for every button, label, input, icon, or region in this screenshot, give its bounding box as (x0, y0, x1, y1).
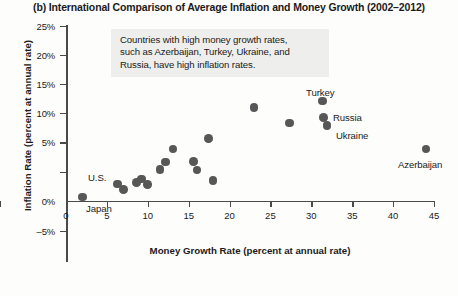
data-point-10 (193, 166, 202, 175)
x-tick-label-45: 45 (419, 210, 449, 221)
x-tick-label-10: 10 (133, 210, 163, 221)
x-tick-label-20: 20 (215, 210, 245, 221)
y-tick-label-10: 10% (11, 108, 55, 119)
y-axis-title: Inflation Rate (percent at annual rate) (22, 11, 33, 241)
y-tick-neg5 (60, 231, 66, 232)
y-tick-5 (60, 142, 66, 143)
y-tick-label-20: 20% (11, 50, 55, 61)
x-tick-20 (230, 201, 231, 207)
x-tick-label-35: 35 (337, 210, 367, 221)
x-tick-label-30: 30 (296, 210, 326, 221)
data-point-14 (285, 119, 294, 128)
x-tick-10 (148, 201, 149, 207)
point-label-azerbaijan: Azerbaijan (398, 159, 442, 170)
point-label-u-s: U.S. (88, 172, 106, 183)
data-point-7 (161, 158, 170, 167)
y-tick-10 (60, 113, 66, 114)
data-point-ukraine (323, 121, 332, 130)
x-tick-35 (352, 201, 353, 207)
y-tick-25 (60, 26, 66, 27)
y-tick-label-15: 15% (11, 79, 55, 90)
x-tick-label-25: 25 (255, 210, 285, 221)
data-point-5 (143, 180, 152, 189)
annotation-line-2: such as Azerbaijan, Turkey, Ukraine, and (120, 46, 322, 58)
data-point-9 (189, 157, 198, 166)
x-tick-0 (66, 201, 67, 207)
point-label-russia: Russia (333, 112, 362, 123)
data-point-13 (250, 103, 259, 112)
y-tick-15 (60, 84, 66, 85)
x-tick-label-0: 0 (51, 210, 81, 221)
chart-title: (b) International Comparison of Average … (0, 1, 458, 13)
data-point-12 (209, 176, 218, 185)
x-axis-line (66, 201, 434, 203)
y-tick-label-neg5: –5% (11, 226, 55, 237)
point-label-turkey: Turkey (306, 87, 334, 98)
x-tick-40 (393, 201, 394, 207)
data-point-japan (78, 193, 87, 202)
annotation-line-3: Russia, have high inflation rates. (120, 59, 322, 71)
chart-figure: (b) International Comparison of Average … (0, 0, 458, 296)
point-label-japan: Japan (86, 203, 112, 214)
data-point-azerbaijan (422, 145, 431, 154)
y-tick-0-minor (60, 172, 66, 173)
data-point-8 (169, 145, 178, 154)
y-axis-line (66, 25, 68, 262)
x-tick-label-15: 15 (174, 210, 204, 221)
y-tick-label-0: 0% (11, 196, 55, 207)
x-tick-15 (189, 201, 190, 207)
x-tick-45 (434, 201, 435, 207)
y-tick-20 (60, 55, 66, 56)
point-label-ukraine: Ukraine (336, 130, 368, 141)
data-point-2 (119, 185, 128, 194)
x-axis-title: Money Growth Rate (percent at annual rat… (66, 245, 434, 256)
annotation-box: Countries with high money growth rates, … (111, 29, 329, 77)
data-point-6 (156, 165, 165, 174)
x-tick-25 (270, 201, 271, 207)
y-tick-label-25: 25% (11, 21, 55, 32)
x-tick-label-40: 40 (378, 210, 408, 221)
x-tick-30 (311, 201, 312, 207)
data-point-11 (204, 134, 213, 143)
y-tick-label-5: 5% (11, 137, 55, 148)
annotation-line-1: Countries with high money growth rates, (120, 34, 322, 46)
